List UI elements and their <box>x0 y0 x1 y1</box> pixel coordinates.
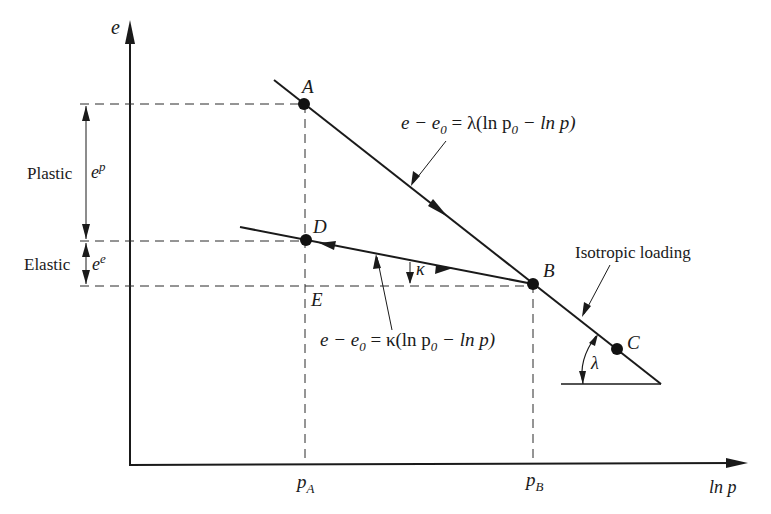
ncl-equation: e − e0 = λ(ln p0 − ln p) <box>401 112 576 137</box>
point-label-B: B <box>543 260 555 281</box>
x-axis-arrowhead <box>726 458 748 468</box>
lambda-symbol: λ <box>590 353 599 373</box>
ncl-direction-arrowhead <box>428 199 448 217</box>
lambda-arc-arrowhead-bottom <box>579 371 586 384</box>
point-C <box>611 343 623 355</box>
point-D <box>300 234 312 246</box>
point-label-C: C <box>627 332 640 353</box>
point-label-E: E <box>310 289 323 310</box>
plastic-arrowhead-bottom <box>82 224 90 239</box>
kappa-symbol: κ <box>416 259 425 279</box>
point-label-A: A <box>300 76 314 97</box>
x-tick-label-pA: pA <box>295 471 315 496</box>
point-label-D: D <box>312 216 327 237</box>
point-B <box>527 278 539 290</box>
plastic-label: Plastic <box>27 164 73 183</box>
plastic-arrowhead-top <box>82 106 90 121</box>
elastic-strain-symbol: ee <box>92 251 106 274</box>
x-axis <box>129 463 738 465</box>
isotropic-loading-label: Isotropic loading <box>575 243 691 262</box>
consolidation-diagram: e ln p pA pB Plastic ep Elastic ee κ λ A… <box>0 0 771 514</box>
elastic-label: Elastic <box>24 255 71 274</box>
point-A <box>298 98 310 110</box>
kappa-angle-arrowhead <box>406 272 414 284</box>
url-leader-arrowhead <box>373 254 381 269</box>
y-axis-label: e <box>111 16 120 38</box>
plastic-strain-symbol: ep <box>91 159 106 182</box>
unloading-reloading-line <box>240 227 533 284</box>
elastic-arrowhead-bottom <box>82 270 90 284</box>
x-axis-label: ln p <box>709 477 737 497</box>
url-equation: e − e0 = κ(ln p0 − ln p) <box>320 329 495 354</box>
y-axis-arrowhead <box>125 20 135 44</box>
elastic-arrowhead-top <box>82 243 90 257</box>
x-tick-label-pB: pB <box>524 469 544 494</box>
ncl-leader-arrowhead <box>411 171 420 186</box>
